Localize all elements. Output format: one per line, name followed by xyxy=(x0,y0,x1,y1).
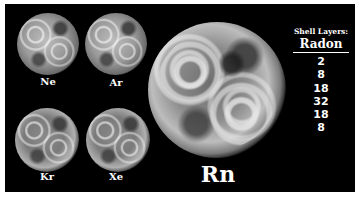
argon-atom-sphere xyxy=(85,13,147,75)
shell-layers-title: Shell Layers: xyxy=(289,27,353,36)
shell-layers-panel: Shell Layers: Radon 2 8 18 32 18 8 xyxy=(289,27,353,135)
radon-atom-sphere xyxy=(148,22,286,158)
shell-layer-1: 2 xyxy=(289,55,353,68)
shell-layer-4: 32 xyxy=(289,95,353,108)
krypton-atom-sphere xyxy=(15,108,79,172)
shell-layer-6: 8 xyxy=(289,121,353,134)
shell-element-name: Radon xyxy=(293,37,349,53)
shell-layer-5: 18 xyxy=(289,108,353,121)
atom-label-xe: Xe xyxy=(96,171,136,182)
xenon-atom-sphere xyxy=(86,108,150,172)
atom-label-kr: Kr xyxy=(27,171,67,182)
atom-label-ne: Ne xyxy=(28,76,68,87)
shell-layer-3: 18 xyxy=(289,82,353,95)
neon-atom-sphere xyxy=(17,13,79,75)
atom-label-rn: Rn xyxy=(188,161,248,187)
shell-layer-2: 8 xyxy=(289,68,353,81)
atom-label-ar: Ar xyxy=(96,77,136,88)
